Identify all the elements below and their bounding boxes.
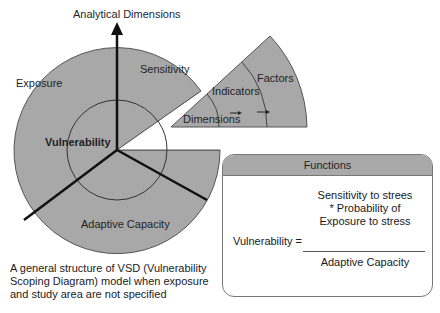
numerator-line: Exposure to stress [305,215,425,228]
wedge-label-indicators: Indicators [212,85,260,97]
arrow-head-icon [111,22,123,35]
formula-numerator: Sensitivity to strees * Probability of E… [305,189,425,228]
sector-label-exposure: Exposure [16,77,62,89]
functions-box: Functions Vulnerability = Sensitivity to… [222,154,433,297]
fraction-bar [303,251,425,252]
formula-denominator: Adaptive Capacity [305,256,425,268]
sector-label-sensitivity: Sensitivity [140,63,190,75]
sector-label-adaptive-capacity: Adaptive Capacity [81,218,170,230]
figure-caption: A general structure of VSD (Vulnerabilit… [10,262,225,301]
formula-lhs: Vulnerability = [233,235,302,247]
axis-label: Analytical Dimensions [73,8,181,20]
wedge-label-dimensions: Dimensions [183,113,240,125]
wedge-label-factors: Factors [257,72,294,84]
numerator-line: * Probability of [305,202,425,215]
center-label-vulnerability: Vulnerability [45,136,111,148]
functions-header: Functions [223,155,432,176]
numerator-line: Sensitivity to strees [305,189,425,202]
